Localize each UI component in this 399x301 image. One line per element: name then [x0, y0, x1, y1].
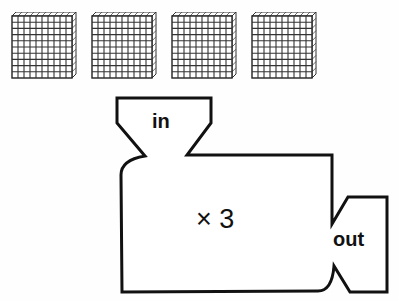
multiplier-value: 3	[219, 204, 234, 234]
multiply-symbol: ×	[196, 204, 212, 234]
input-label: in	[152, 110, 170, 133]
function-machine	[0, 0, 399, 301]
operation-text: × 3	[196, 204, 234, 235]
output-label: out	[333, 228, 364, 251]
